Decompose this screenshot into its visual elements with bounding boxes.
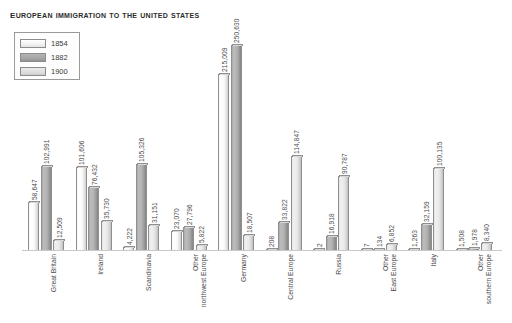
- bar-rect-1854: [266, 249, 277, 251]
- bar-value-label: 6,852: [388, 225, 395, 242]
- bar-rect-1882: [421, 224, 432, 250]
- bar-rect-1882: [136, 164, 147, 250]
- bar-top-face: [172, 230, 183, 232]
- bar-top-face: [149, 224, 160, 226]
- bar-value-label: 105,326: [138, 137, 145, 162]
- bar-top-face: [244, 234, 255, 236]
- bar-top-face: [374, 248, 385, 250]
- bar-rect-1882: [278, 222, 289, 250]
- bar: 6,852: [386, 244, 397, 250]
- bar-top-face: [29, 201, 40, 203]
- bar-rect-1882: [373, 249, 384, 251]
- bar-value-label: 90,787: [340, 153, 347, 174]
- bar-rect-1854: [171, 231, 182, 250]
- bar: 76,432: [88, 187, 99, 250]
- bar-top-face: [54, 239, 65, 241]
- bar-rect-1882: [88, 187, 99, 250]
- bar-rect-1854: [28, 202, 39, 250]
- bar-top-face: [409, 248, 420, 250]
- bar: 12,509: [53, 240, 64, 250]
- bar-rect-1882: [183, 227, 194, 250]
- bar: 58,647: [28, 202, 39, 250]
- bar-value-label: 31,151: [150, 202, 157, 223]
- bar-value-label: 58,647: [30, 179, 37, 200]
- bar-value-label: 114,847: [293, 130, 300, 154]
- bar-rect-1882: [41, 166, 52, 250]
- bar-value-label: 33,822: [280, 200, 287, 221]
- bar-rect-1900: [386, 244, 397, 250]
- bar: 23,070: [171, 231, 182, 250]
- bar-top-face: [267, 248, 278, 250]
- bar: 134: [373, 249, 384, 251]
- bar-value-label: 35,730: [103, 198, 110, 219]
- bar-rect-1854: [408, 249, 419, 251]
- bar-value-label: 8,340: [483, 224, 490, 241]
- bar-value-label: 101,606: [78, 140, 85, 165]
- bar: 114,847: [291, 156, 302, 250]
- bar-value-label: 18,507: [245, 212, 252, 233]
- bar-top-face: [102, 220, 113, 222]
- bar: 102,991: [41, 166, 52, 250]
- bar: 35,730: [101, 221, 112, 250]
- bar-value-label: 100,135: [435, 142, 442, 167]
- bar-rect-1854: [76, 167, 87, 250]
- bar-top-face: [89, 186, 100, 188]
- bar-value-label: 102,991: [43, 139, 50, 164]
- bar: 16,918: [326, 236, 337, 250]
- bar-top-face: [457, 248, 468, 250]
- bar-top-face: [292, 155, 303, 157]
- bar: 4,222: [123, 247, 134, 250]
- bar-value-label: 7: [363, 243, 370, 247]
- bar-value-label: 134: [375, 235, 382, 246]
- plot-area: 58,647102,99112,509Great Britain101,6067…: [0, 0, 512, 323]
- bar-top-face: [362, 248, 373, 250]
- bar: 90,787: [338, 176, 349, 250]
- category-label: Other East Europe: [382, 254, 397, 320]
- category-label: Scandinavia: [145, 254, 153, 320]
- bar: 31,151: [148, 225, 159, 250]
- bar-top-face: [469, 247, 480, 249]
- category-label: Italy: [430, 254, 438, 320]
- bar-top-face: [42, 165, 53, 167]
- bar-value-label: 1,263: [410, 229, 417, 246]
- bar: 7: [361, 249, 372, 251]
- bar-top-face: [77, 166, 88, 168]
- bar-top-face: [314, 248, 325, 250]
- category-label: Other southern Europe: [477, 254, 492, 320]
- bar: 208: [266, 249, 277, 251]
- bar-value-label: 1,508: [458, 229, 465, 246]
- bar: 250,630: [231, 45, 242, 250]
- bar-rect-1900: [481, 243, 492, 250]
- bar-rect-1900: [291, 156, 302, 250]
- bar-top-face: [279, 221, 290, 223]
- bar-top-face: [339, 175, 350, 177]
- category-label: Ireland: [97, 254, 105, 320]
- bar-top-face: [124, 246, 135, 248]
- bar-top-face: [327, 235, 338, 237]
- bar-value-label: 208: [268, 235, 275, 246]
- bar-value-label: 250,630: [233, 18, 240, 43]
- bar-top-face: [387, 243, 398, 245]
- bar-rect-1900: [243, 235, 254, 250]
- bar-rect-1882: [468, 248, 479, 250]
- bar: 101,606: [76, 167, 87, 250]
- bar-value-label: 23,070: [173, 208, 180, 229]
- category-label: Central Europe: [287, 254, 295, 320]
- bar: 18,507: [243, 235, 254, 250]
- bar: 32,159: [421, 224, 432, 250]
- bar-rect-1882: [326, 236, 337, 250]
- bar-rect-1900: [196, 245, 207, 250]
- bar-top-face: [422, 223, 433, 225]
- bar: 5,822: [196, 245, 207, 250]
- bar-value-label: 1,978: [470, 229, 477, 246]
- bar: 27,796: [183, 227, 194, 250]
- bar-value-label: 215,009: [220, 48, 227, 73]
- bar-rect-1854: [361, 249, 372, 251]
- bar-top-face: [482, 242, 493, 244]
- bar-rect-1854: [456, 249, 467, 251]
- bar-value-label: 12,509: [55, 217, 62, 238]
- bar-rect-1900: [148, 225, 159, 250]
- category-label: Great Britain: [50, 254, 58, 320]
- bar-rect-1900: [338, 176, 349, 250]
- bar-top-face: [434, 167, 445, 169]
